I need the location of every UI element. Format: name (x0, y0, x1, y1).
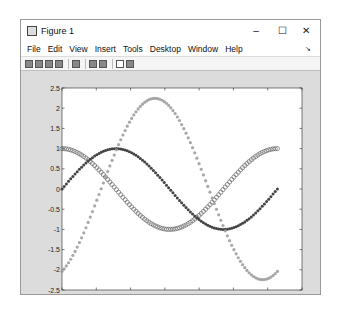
data-marker (265, 200, 268, 203)
data-marker (61, 188, 64, 191)
data-marker (239, 260, 242, 263)
data-marker (152, 169, 155, 172)
data-marker (104, 176, 107, 179)
figure-canvas: 01234567-2.5-2-1.5-1-0.500.511.522.5 (21, 71, 320, 294)
data-marker (226, 234, 229, 237)
y-tick-label: 0.5 (50, 165, 60, 172)
window-title: Figure 1 (41, 26, 74, 36)
data-marker (128, 121, 131, 124)
data-marker (102, 181, 105, 184)
data-marker (150, 167, 153, 170)
data-marker (176, 196, 179, 199)
menu-desktop[interactable]: Desktop (150, 44, 181, 54)
y-tick-label: 1 (56, 145, 60, 152)
edit-plot-arrow-icon[interactable] (116, 60, 124, 68)
property-inspector-icon[interactable] (126, 60, 134, 68)
data-marker (163, 181, 166, 184)
data-marker (63, 267, 66, 270)
data-marker (148, 165, 151, 168)
data-marker (272, 193, 275, 196)
data-marker (187, 208, 190, 211)
y-tick-label: 2.5 (50, 85, 60, 92)
data-marker (67, 180, 70, 183)
data-marker (217, 213, 220, 216)
x-tick-label: 7 (300, 293, 304, 294)
data-marker (274, 190, 277, 193)
menu-tools[interactable]: Tools (123, 44, 143, 54)
data-marker (232, 248, 235, 251)
link-plot-icon[interactable] (89, 60, 97, 68)
menu-help[interactable]: Help (225, 44, 242, 54)
data-marker (184, 132, 187, 135)
menu-insert[interactable]: Insert (95, 44, 116, 54)
data-marker (108, 164, 111, 167)
data-marker (119, 138, 122, 141)
y-tick-label: 2 (56, 105, 60, 112)
data-marker (200, 168, 203, 171)
data-marker (126, 125, 129, 128)
data-marker (134, 110, 137, 113)
x-tick-label: 6 (266, 293, 270, 294)
menu-window[interactable]: Window (188, 44, 218, 54)
data-marker (245, 269, 248, 272)
data-marker (180, 123, 183, 126)
data-marker (124, 129, 127, 132)
data-marker (137, 107, 140, 110)
data-marker (259, 207, 262, 210)
data-marker (71, 175, 74, 178)
dock-figure-icon[interactable]: ↘ (305, 45, 311, 53)
data-marker (230, 244, 233, 247)
data-marker (234, 252, 237, 255)
data-marker (178, 119, 181, 122)
open-file-icon[interactable] (35, 60, 43, 68)
figure-window: Figure 1 – ☐ ✕ File Edit View Insert Too… (20, 19, 321, 295)
data-marker (91, 210, 94, 213)
data-marker (263, 203, 266, 206)
data-marker (276, 270, 279, 273)
data-marker (211, 196, 214, 199)
toolbar-separator (68, 59, 69, 69)
new-figure-icon[interactable] (25, 60, 33, 68)
data-marker (161, 179, 164, 182)
data-marker (206, 185, 209, 188)
menu-file[interactable]: File (27, 44, 41, 54)
axes-box (62, 88, 302, 290)
maximize-button[interactable]: ☐ (270, 20, 294, 41)
data-marker (169, 106, 172, 109)
data-marker (78, 241, 81, 244)
data-marker (224, 229, 227, 232)
data-marker (89, 215, 92, 218)
minimize-button[interactable]: – (244, 20, 268, 41)
insert-colorbar-icon[interactable] (99, 60, 107, 68)
data-marker (78, 168, 81, 171)
data-marker (243, 266, 246, 269)
x-tick-label: 0 (60, 293, 64, 294)
data-marker (182, 204, 185, 207)
data-marker (228, 239, 231, 242)
data-marker (65, 264, 68, 267)
menu-edit[interactable]: Edit (48, 44, 63, 54)
line-plot[interactable]: 01234567-2.5-2-1.5-1-0.500.511.522.5 (21, 71, 320, 294)
save-icon[interactable] (45, 60, 53, 68)
print-icon[interactable] (55, 60, 63, 68)
figure-toolbar (21, 56, 320, 71)
data-marker (115, 148, 118, 151)
data-marker (195, 157, 198, 160)
data-marker (171, 191, 174, 194)
data-marker (158, 176, 161, 179)
data-marker (189, 210, 192, 213)
toolbar-separator (85, 59, 86, 69)
print-preview-icon[interactable] (72, 60, 80, 68)
matlab-figure-icon (27, 26, 37, 36)
menu-bar: File Edit View Insert Tools Desktop Wind… (21, 41, 320, 56)
data-marker (197, 162, 200, 165)
data-marker (84, 226, 87, 229)
close-button[interactable]: ✕ (294, 20, 318, 41)
data-marker (202, 173, 205, 176)
x-tick-label: 2 (129, 293, 133, 294)
data-marker (100, 187, 103, 190)
title-bar: Figure 1 – ☐ ✕ (21, 20, 320, 41)
menu-view[interactable]: View (69, 44, 87, 54)
data-marker (208, 191, 211, 194)
data-marker (185, 206, 188, 209)
